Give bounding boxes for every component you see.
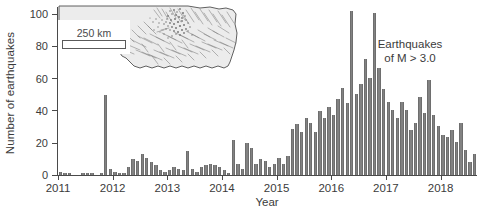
bar (396, 118, 399, 175)
bar (414, 123, 417, 175)
bar (446, 137, 449, 175)
bar (464, 150, 467, 175)
x-tick-2011 (58, 175, 59, 180)
bar (195, 172, 198, 175)
x-axis-label: Year (57, 196, 477, 208)
bar (459, 123, 462, 175)
x-tick-2015 (277, 175, 278, 180)
bar (141, 154, 144, 175)
bar (100, 173, 103, 175)
bar (154, 165, 157, 175)
bar (159, 170, 162, 175)
bar (336, 99, 339, 175)
bar (191, 169, 194, 175)
x-tick-label-2016: 2016 (308, 182, 354, 194)
bar (323, 118, 326, 175)
bar (437, 126, 440, 175)
y-tick-100 (52, 14, 57, 15)
annotation-line-1: Earthquakes (352, 38, 468, 52)
bar (364, 59, 367, 175)
bar (455, 142, 458, 175)
y-axis-label: Number of earthquakes (4, 10, 18, 176)
bar (418, 97, 421, 175)
bar (291, 129, 294, 175)
bar (81, 173, 84, 175)
x-tick-2014 (222, 175, 223, 180)
bar (350, 11, 353, 175)
bar (341, 88, 344, 175)
x-tick-2016 (331, 175, 332, 180)
bar (245, 143, 248, 175)
bar (277, 158, 280, 175)
bar (213, 165, 216, 175)
bar (405, 110, 408, 175)
bar (282, 164, 285, 175)
bar (300, 132, 303, 175)
bar (218, 167, 221, 175)
bar (200, 167, 203, 175)
bar (318, 111, 321, 175)
bar (314, 132, 317, 175)
x-tick-2017 (386, 175, 387, 180)
earthquake-frequency-chart: Number of earthquakes 100 80 60 40 20 0 … (0, 0, 482, 216)
bar (90, 173, 93, 175)
x-tick-label-2017: 2017 (363, 182, 409, 194)
bar (68, 173, 71, 175)
bar (355, 94, 358, 175)
y-tick-20 (52, 143, 57, 144)
bar (131, 159, 134, 175)
y-tick-80 (52, 46, 57, 47)
x-tick-label-2018: 2018 (418, 182, 464, 194)
bar (295, 124, 298, 175)
y-tick-label-20: 20 (10, 137, 48, 149)
y-tick-label-80: 80 (10, 40, 48, 52)
bar (286, 156, 289, 175)
bar (441, 135, 444, 175)
bar (387, 102, 390, 175)
bar (468, 162, 471, 175)
bar (232, 140, 235, 175)
x-tick-label-2015: 2015 (254, 182, 300, 194)
bar (409, 130, 412, 175)
bar (332, 115, 335, 175)
x-tick-2018 (441, 175, 442, 180)
bar (427, 80, 430, 175)
bar (145, 158, 148, 175)
bar (377, 68, 380, 175)
y-tick-0 (52, 175, 57, 176)
bar (346, 103, 349, 175)
bar (150, 162, 153, 175)
bar (122, 173, 125, 175)
y-tick-label-100: 100 (10, 8, 48, 20)
bar (391, 110, 394, 175)
bar (236, 164, 239, 175)
bar (163, 172, 166, 175)
chart-annotation: Earthquakes of M > 3.0 (352, 38, 468, 65)
x-tick-2013 (167, 175, 168, 180)
bar (423, 113, 426, 175)
bar (273, 164, 276, 175)
x-tick-label-2011: 2011 (35, 182, 81, 194)
y-tick-60 (52, 78, 57, 79)
scalebar (62, 40, 126, 49)
bar (186, 151, 189, 175)
bar (473, 154, 476, 175)
bar (327, 107, 330, 175)
x-tick-label-2013: 2013 (144, 182, 190, 194)
bar (172, 167, 175, 175)
bar (127, 167, 130, 175)
bar (305, 118, 308, 175)
y-tick-label-40: 40 (10, 105, 48, 117)
x-tick-2012 (113, 175, 114, 180)
bar (204, 165, 207, 175)
bar (109, 169, 112, 175)
bar (177, 169, 180, 175)
x-tick-label-2014: 2014 (199, 182, 245, 194)
x-tick-label-2012: 2012 (90, 182, 136, 194)
bar (368, 78, 371, 175)
bar (400, 102, 403, 175)
bar (86, 173, 89, 175)
y-tick-40 (52, 110, 57, 111)
annotation-line-2: of M > 3.0 (352, 52, 468, 66)
bar (250, 148, 253, 175)
